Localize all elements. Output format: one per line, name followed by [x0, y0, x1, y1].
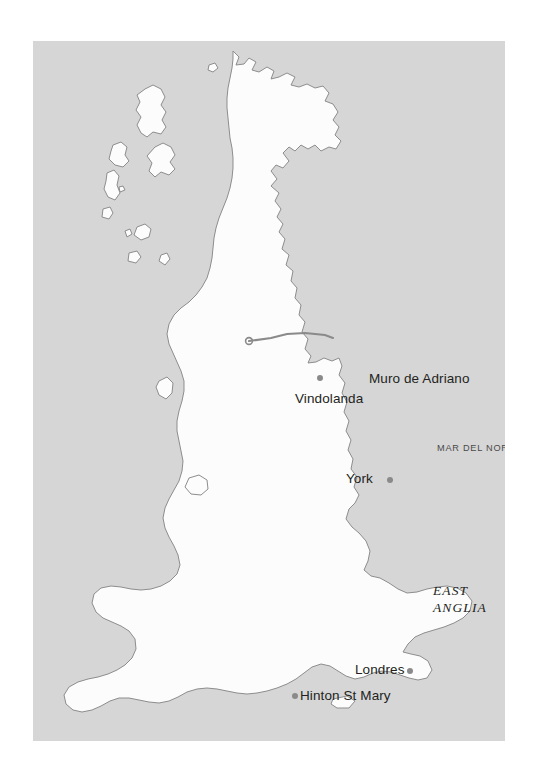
label-londres[interactable]: Londres	[355, 663, 405, 677]
dot-york[interactable]	[387, 477, 393, 483]
dot-vindolanda[interactable]	[317, 375, 323, 381]
label-vindolanda[interactable]: Vindolanda	[295, 392, 363, 406]
britain-map-render	[33, 41, 505, 741]
label-east-anglia-line2: ANGLIA	[433, 599, 487, 616]
label-east-anglia-line1: EAST	[433, 582, 487, 599]
label-york[interactable]: York	[346, 472, 373, 486]
map-page: Muro de Adriano Vindolanda York Londres …	[0, 0, 537, 782]
label-muro-de-adriano[interactable]: Muro de Adriano	[369, 372, 470, 386]
map-plate[interactable]: Muro de Adriano Vindolanda York Londres …	[33, 41, 505, 741]
label-east-anglia: EAST ANGLIA	[433, 582, 487, 617]
dot-londres[interactable]	[407, 668, 413, 674]
dot-hinton-st-mary[interactable]	[292, 693, 298, 699]
label-mar-del-norte: MAR DEL NORTE	[437, 444, 505, 453]
island-lewis-harris	[136, 85, 166, 137]
label-hinton-st-mary[interactable]: Hinton St Mary	[300, 689, 391, 703]
